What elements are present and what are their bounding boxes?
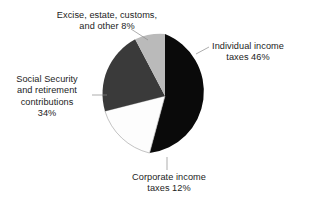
- pie-label-excise-estate-customs-other: Excise, estate, customs, and other 8%: [41, 10, 173, 33]
- pie-label-corporate-income-taxes: Corporate income taxes 12%: [117, 172, 221, 195]
- pie-label-social-security-retirement: Social Security and retirement contribut…: [2, 74, 92, 120]
- pie-chart-figure: Excise, estate, customs, and other 8% In…: [0, 0, 311, 205]
- pie-label-individual-income-taxes: Individual income taxes 46%: [196, 41, 300, 64]
